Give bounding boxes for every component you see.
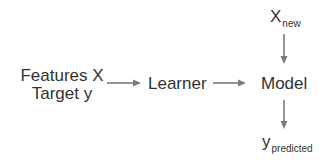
arrow-inputs-to-learner-icon: [107, 80, 141, 87]
arrow-learner-to-model-icon: [213, 80, 246, 87]
arrow-new-input-to-model-icon: [281, 34, 288, 64]
arrows-layer: [0, 0, 330, 160]
arrow-model-to-output-icon: [281, 100, 288, 129]
